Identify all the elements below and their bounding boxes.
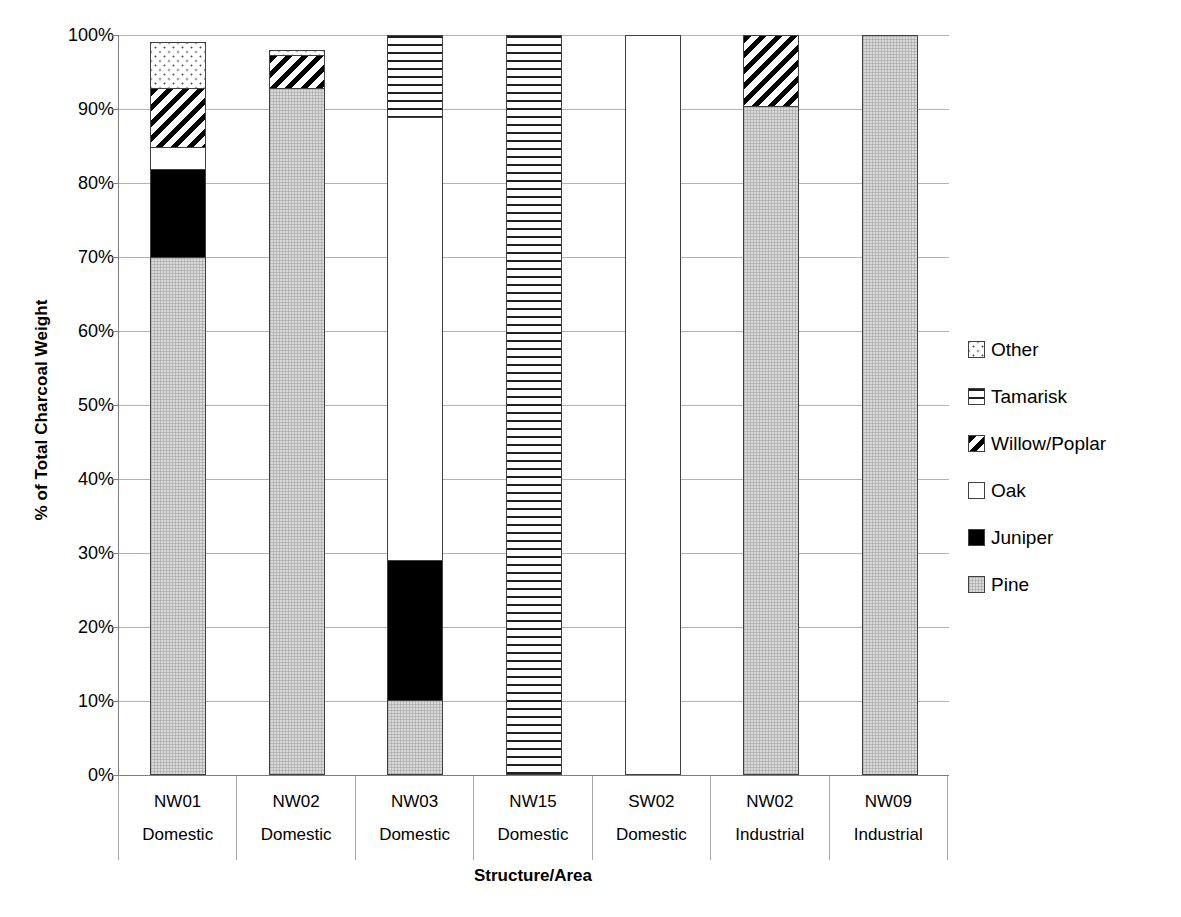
bar-slot [356, 35, 475, 775]
legend-item-oak[interactable]: Oak [968, 467, 1173, 514]
bar-slot [475, 35, 594, 775]
legend-item-willow-poplar[interactable]: Willow/Poplar [968, 420, 1173, 467]
stacked-bar[interactable] [150, 42, 206, 775]
legend-swatch-icon [968, 435, 985, 452]
x-axis-category-name: NW15 [509, 792, 556, 812]
legend-label: Tamarisk [991, 386, 1067, 408]
bar-segment-pine[interactable] [388, 700, 442, 774]
y-axis-tick-mark [112, 405, 119, 406]
x-axis-category-name: NW02 [273, 792, 320, 812]
bar-segment-pine[interactable] [744, 106, 798, 774]
plot-area [118, 35, 949, 775]
y-axis-tick-mark [112, 553, 119, 554]
y-axis-tick-mark [112, 479, 119, 480]
stacked-bar[interactable] [387, 35, 443, 775]
x-axis-category-name: NW01 [154, 792, 201, 812]
x-axis-category: NW02Industrial [711, 776, 829, 860]
stacked-bar[interactable] [625, 35, 681, 775]
x-axis-category-type: Domestic [498, 825, 569, 845]
legend-swatch-icon [968, 576, 985, 593]
bar-segment-pine[interactable] [270, 88, 324, 774]
y-axis-tick-mark [112, 183, 119, 184]
bar-segment-oak[interactable] [626, 36, 680, 774]
x-axis-category: SW02Domestic [593, 776, 711, 860]
y-axis-title: % of Total Charcoal Weight [32, 280, 52, 540]
x-axis-category-name: NW03 [391, 792, 438, 812]
x-axis-category: NW03Domestic [356, 776, 474, 860]
x-axis-category-name: NW09 [865, 792, 912, 812]
legend-swatch-icon [968, 388, 985, 405]
bar-segment-pine[interactable] [863, 36, 917, 774]
stacked-bar[interactable] [506, 35, 562, 775]
x-axis-category-type: Domestic [142, 825, 213, 845]
legend-label: Pine [991, 574, 1029, 596]
x-axis-category-type: Industrial [735, 825, 804, 845]
legend-item-juniper[interactable]: Juniper [968, 514, 1173, 561]
x-axis-category-name: NW02 [746, 792, 793, 812]
y-tick-label: 10% [52, 691, 114, 712]
x-axis-category-type: Industrial [854, 825, 923, 845]
legend-label: Other [991, 339, 1039, 361]
x-axis-category: NW01Domestic [118, 776, 237, 860]
stacked-bar-chart: % of Total Charcoal Weight 100%90%80%70%… [0, 0, 1181, 917]
legend-item-pine[interactable]: Pine [968, 561, 1173, 608]
y-tick-label: 90% [52, 99, 114, 120]
bar-slot [119, 35, 238, 775]
legend-swatch-icon [968, 482, 985, 499]
bar-segment-oak[interactable] [388, 117, 442, 560]
bar-segment-willow-poplar[interactable] [270, 55, 324, 88]
y-axis-tick-mark [112, 627, 119, 628]
y-axis-tick-mark [112, 35, 119, 36]
y-tick-label: 50% [52, 395, 114, 416]
stacked-bar[interactable] [743, 35, 799, 775]
bar-slot [238, 35, 357, 775]
y-tick-label: 30% [52, 543, 114, 564]
legend-swatch-icon [968, 341, 985, 358]
bar-group [119, 35, 949, 775]
y-tick-label: 60% [52, 321, 114, 342]
y-axis-tick-mark [112, 331, 119, 332]
x-axis-category-name: SW02 [628, 792, 674, 812]
bar-segment-willow-poplar[interactable] [151, 88, 205, 147]
x-axis-category-type: Domestic [261, 825, 332, 845]
y-axis-tick-mark [112, 701, 119, 702]
bar-segment-oak[interactable] [151, 147, 205, 169]
x-axis-title: Structure/Area [118, 866, 948, 886]
x-axis-category: NW15Domestic [474, 776, 592, 860]
legend-label: Juniper [991, 527, 1053, 549]
bar-segment-willow-poplar[interactable] [744, 36, 798, 106]
y-tick-label: 40% [52, 469, 114, 490]
y-tick-label: 100% [52, 25, 114, 46]
bar-segment-juniper[interactable] [388, 560, 442, 700]
bar-segment-tamarisk[interactable] [388, 36, 442, 117]
y-tick-label: 0% [52, 765, 114, 786]
y-tick-label: 80% [52, 173, 114, 194]
bar-segment-juniper[interactable] [151, 169, 205, 258]
x-axis-categories: NW01DomesticNW02DomesticNW03DomesticNW15… [118, 776, 948, 860]
x-axis-category: NW09Industrial [830, 776, 948, 860]
legend-item-tamarisk[interactable]: Tamarisk [968, 373, 1173, 420]
y-tick-label: 70% [52, 247, 114, 268]
y-axis-tick-mark [112, 109, 119, 110]
legend-label: Willow/Poplar [991, 433, 1106, 455]
legend-label: Oak [991, 480, 1026, 502]
legend-swatch-icon [968, 529, 985, 546]
x-axis-category-type: Domestic [616, 825, 687, 845]
bar-slot [830, 35, 949, 775]
y-axis-tick-labels: 100%90%80%70%60%50%40%30%20%10%0% [52, 35, 114, 775]
bar-slot [712, 35, 831, 775]
legend-item-other[interactable]: Other [968, 326, 1173, 373]
x-axis-category-type: Domestic [379, 825, 450, 845]
bar-slot [593, 35, 712, 775]
stacked-bar[interactable] [862, 35, 918, 775]
bar-segment-pine[interactable] [151, 257, 205, 774]
y-tick-label: 20% [52, 617, 114, 638]
stacked-bar[interactable] [269, 50, 325, 775]
bar-segment-other[interactable] [151, 43, 205, 87]
y-axis-tick-mark [112, 257, 119, 258]
x-axis-category: NW02Domestic [237, 776, 355, 860]
chart-legend: OtherTamariskWillow/PoplarOakJuniperPine [968, 326, 1173, 608]
bar-segment-tamarisk[interactable] [507, 36, 561, 774]
